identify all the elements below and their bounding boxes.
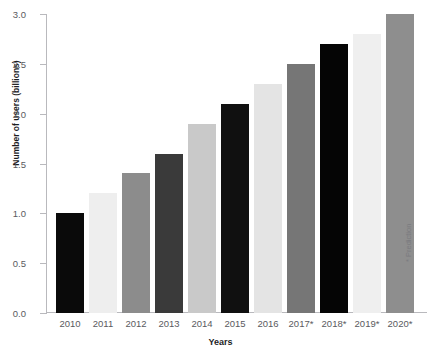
y-axis-tick-label: 2.0 bbox=[0, 108, 26, 119]
y-axis-tick-label: 1.5 bbox=[0, 158, 26, 169]
bar[interactable] bbox=[386, 14, 414, 313]
y-axis-tick-label: 2.5 bbox=[0, 58, 26, 69]
y-axis-tick-label: 0.0 bbox=[0, 308, 26, 319]
bar[interactable] bbox=[122, 173, 150, 313]
plot-area: 0.00.51.01.52.02.53.0 bbox=[46, 14, 427, 313]
bar[interactable] bbox=[155, 154, 183, 313]
bar[interactable] bbox=[320, 44, 348, 313]
prediction-note: * Prediction bbox=[404, 178, 413, 262]
bar[interactable] bbox=[287, 64, 315, 313]
bar[interactable] bbox=[89, 193, 117, 313]
bar[interactable] bbox=[353, 34, 381, 313]
y-axis-tick-label: 3.0 bbox=[0, 9, 26, 20]
bar[interactable] bbox=[254, 84, 282, 313]
bar[interactable] bbox=[221, 104, 249, 313]
x-axis-title: Years bbox=[0, 337, 441, 347]
bar[interactable] bbox=[56, 213, 84, 313]
bar[interactable] bbox=[188, 124, 216, 313]
x-axis-tick-label: 2020* bbox=[378, 318, 422, 329]
y-axis-tick bbox=[40, 313, 47, 314]
bar-series bbox=[46, 14, 427, 313]
chart-title bbox=[4, 0, 334, 4]
y-axis-tick-label: 1.0 bbox=[0, 208, 26, 219]
y-axis-tick-label: 0.5 bbox=[0, 258, 26, 269]
